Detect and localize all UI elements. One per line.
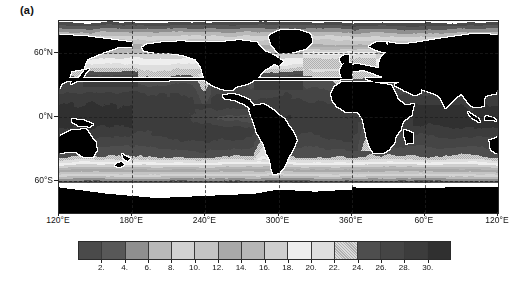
colorbar-tick-label: 6.	[145, 263, 152, 272]
colorbar-tick-label: 4.	[121, 263, 128, 272]
y-tick-label: 60°S	[34, 175, 53, 185]
colorbar-tick-label: 12.	[212, 263, 223, 272]
colorbar-cell	[265, 242, 288, 259]
colorbar-cell	[219, 242, 242, 259]
colorbar-cell	[312, 242, 335, 259]
colorbar-cell	[149, 242, 172, 259]
colorbar-cell	[381, 242, 404, 259]
colorbar-cell	[428, 242, 450, 259]
colorbar-tick-label: 30.	[422, 263, 433, 272]
map-raster	[59, 21, 498, 213]
x-tick-label: 300°E	[266, 215, 289, 225]
colorbar-tick-label: 10.	[189, 263, 200, 272]
world-map	[58, 20, 499, 214]
x-tick-label: 240°E	[193, 215, 216, 225]
colorbar-tick-label: 20.	[306, 263, 317, 272]
x-tick-label: 60°E	[415, 215, 434, 225]
colorbar-tick-label: 14.	[236, 263, 247, 272]
colorbar-cell	[195, 242, 218, 259]
figure-panel: (a) 120°E180°E240°E300°E360°E60°E120°E60…	[0, 0, 521, 290]
colorbar-cell	[405, 242, 428, 259]
y-tick	[54, 116, 58, 117]
colorbar-tick-label: 18.	[282, 263, 293, 272]
y-tick-label: 0°N	[39, 111, 53, 121]
x-tick-label: 360°E	[339, 215, 362, 225]
colorbar-tick-label: 26.	[376, 263, 387, 272]
colorbar-tick-label: 8.	[168, 263, 175, 272]
colorbar-cell	[126, 242, 149, 259]
colorbar-tick-label: 22.	[329, 263, 340, 272]
y-tick	[54, 52, 58, 53]
colorbar-cell	[358, 242, 381, 259]
colorbar-cells	[78, 241, 451, 260]
x-tick-label: 120°E	[485, 215, 508, 225]
colorbar-tick-label: 2.	[98, 263, 105, 272]
colorbar-cell	[288, 242, 311, 259]
colorbar-cell	[172, 242, 195, 259]
colorbar	[78, 241, 451, 260]
x-tick-label: 120°E	[46, 215, 69, 225]
colorbar-cell	[335, 242, 358, 259]
y-tick	[54, 180, 58, 181]
x-tick-label: 180°E	[120, 215, 143, 225]
colorbar-cell	[242, 242, 265, 259]
panel-label: (a)	[20, 4, 34, 16]
colorbar-tick-label: 16.	[259, 263, 270, 272]
colorbar-cell	[102, 242, 125, 259]
colorbar-tick-label: 28.	[399, 263, 410, 272]
colorbar-tick-label: 24.	[352, 263, 363, 272]
colorbar-cell	[79, 242, 102, 259]
y-tick-label: 60°N	[34, 47, 53, 57]
